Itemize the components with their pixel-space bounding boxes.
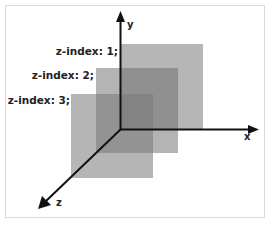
z-axis-line xyxy=(45,130,121,203)
y-axis-arrow-icon xyxy=(116,11,125,22)
label-z-index-3: z-index: 3; xyxy=(8,94,70,106)
y-axis-label: y xyxy=(127,19,134,30)
label-z-index-1: z-index: 1; xyxy=(56,45,118,57)
x-axis-label: x xyxy=(244,131,250,142)
label-z-index-2: z-index: 2; xyxy=(32,69,94,81)
z-axis-label: z xyxy=(56,197,62,208)
coordinate-axes xyxy=(0,0,274,226)
